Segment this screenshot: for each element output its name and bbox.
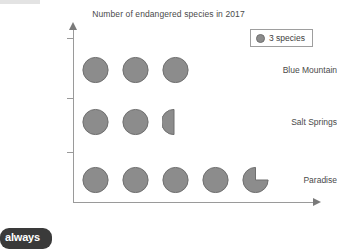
- circle-icon: [162, 167, 189, 194]
- circle-icon: [122, 57, 149, 84]
- y-axis-label-paradise: Paradise: [269, 175, 337, 185]
- legend-label: 3 species: [269, 33, 305, 43]
- y-axis-line: [73, 28, 74, 203]
- circle-icon: [82, 109, 109, 136]
- arrow-up-icon: [69, 22, 77, 30]
- circle-icon: [122, 109, 149, 136]
- x-axis-line: [73, 202, 315, 203]
- chart-title: Number of endangered species in 2017: [0, 9, 337, 19]
- circle-icon: [82, 167, 109, 194]
- y-axis-label-salt-springs: Salt Springs: [269, 117, 337, 127]
- partial-circle-icon: [242, 167, 269, 194]
- bottom-overlay-badge[interactable]: always: [0, 228, 52, 249]
- circle-icon: [162, 57, 189, 84]
- circle-icon: [202, 167, 229, 194]
- y-axis-label-blue-mountain: Blue Mountain: [269, 65, 337, 75]
- y-axis-tick: [67, 38, 74, 39]
- y-axis-tick: [67, 152, 74, 153]
- chart-legend: 3 species: [250, 29, 313, 47]
- circle-icon: [82, 57, 109, 84]
- circle-icon: [122, 167, 149, 194]
- y-axis-tick: [67, 98, 74, 99]
- arrow-right-icon: [313, 198, 321, 206]
- partial-circle-icon: [162, 109, 189, 136]
- legend-circle-icon: [256, 34, 265, 43]
